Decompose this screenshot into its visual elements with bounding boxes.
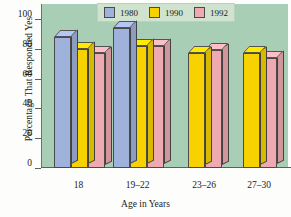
legend-swatch-1980	[104, 7, 115, 18]
legend-item-0: 1980	[104, 7, 138, 18]
bar-side-face	[260, 46, 267, 164]
bar-1990-27_30	[243, 53, 260, 168]
bar-1990-23_26	[188, 53, 205, 168]
bar-side-face	[205, 46, 212, 164]
bar-front-face	[188, 53, 205, 168]
legend-label-1990: 1990	[165, 8, 183, 18]
chart-legend: 1980 1990 1992	[97, 3, 235, 22]
legend-item-1: 1990	[149, 7, 183, 18]
legend-item-2: 1992	[194, 7, 228, 18]
y-tick-mark-0	[35, 168, 41, 169]
bar-1980-19_22	[113, 28, 130, 168]
chart-figure: Percentage That Responded Yes 0204060801…	[0, 0, 291, 217]
bar-side-face	[147, 39, 154, 165]
plot-area	[41, 4, 288, 168]
x-axis-title: Age in Years	[0, 199, 291, 209]
bar-side-face	[88, 42, 95, 165]
legend-swatch-1992	[194, 7, 205, 18]
x-category-label-3: 27–30	[224, 180, 291, 190]
bar-front-face	[54, 37, 71, 168]
bar-side-face	[164, 39, 171, 165]
legend-swatch-1990	[149, 7, 160, 18]
bar-front-face	[113, 28, 130, 168]
legend-label-1980: 1980	[120, 8, 138, 18]
x-category-label-1: 19–22	[94, 180, 181, 190]
bar-side-face	[71, 30, 78, 165]
bar-side-face	[130, 21, 137, 165]
bar-side-face	[277, 51, 284, 165]
legend-label-1992: 1992	[210, 8, 228, 18]
bar-side-face	[105, 46, 112, 164]
bar-front-face	[243, 53, 260, 168]
bar-side-face	[222, 43, 229, 164]
bar-1980-18	[54, 37, 71, 168]
